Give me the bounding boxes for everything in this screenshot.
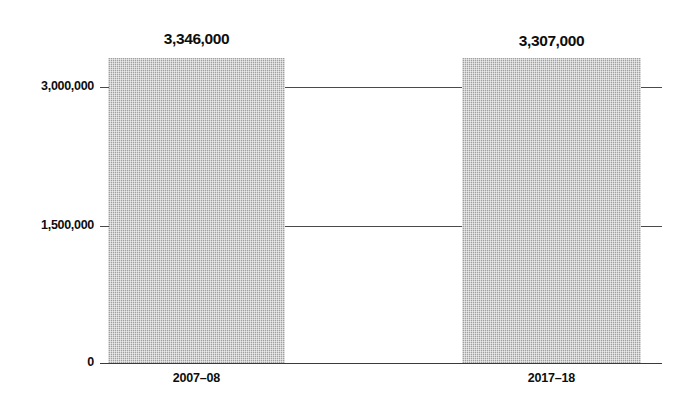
bar-value-label-2007-08: 3,346,000 (108, 31, 285, 47)
bar-chart: 3,000,000 1,500,000 0 3,346,000 3,307,00… (0, 0, 684, 417)
y-axis-tick-label-0: 0 (87, 356, 94, 369)
gridline-tick-1500000-left (100, 226, 109, 227)
gridline-tick-3000000-left (100, 87, 109, 88)
x-axis-baseline (100, 363, 662, 364)
bar-2007-08[interactable] (108, 58, 285, 364)
gridline-tick-1500000-right (641, 226, 662, 227)
bar-2017-18[interactable] (462, 58, 641, 364)
gridline-tick-3000000-right (641, 87, 662, 88)
y-axis-tick-label-3000000: 3,000,000 (41, 80, 94, 93)
gridline-3000000 (285, 87, 462, 88)
x-axis-category-label-2017-18: 2017–18 (462, 372, 641, 385)
bar-value-label-2017-18: 3,307,000 (462, 33, 641, 49)
x-axis-category-label-2007-08: 2007–08 (108, 372, 285, 385)
y-axis-tick-label-1500000: 1,500,000 (41, 219, 94, 232)
gridline-1500000 (285, 226, 462, 227)
